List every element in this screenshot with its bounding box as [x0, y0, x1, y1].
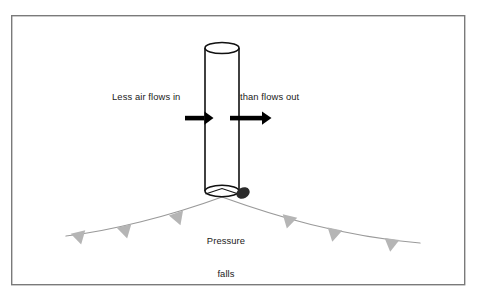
cylinder-body — [205, 48, 239, 197]
label-than-flows-out: than flows out — [240, 91, 299, 102]
cylinder-top-ellipse — [205, 43, 239, 54]
cylinder-bottom-ellipse — [205, 185, 239, 197]
outflow-arrow-shaft — [230, 116, 262, 121]
figure-root: Less air flows in than flows out Pressur… — [0, 0, 481, 295]
label-pressure-falls-line1: Pressure — [196, 235, 256, 246]
label-pressure-falls: Pressure falls — [196, 213, 256, 295]
label-less-air-flows-in: Less air flows in — [112, 91, 180, 102]
inflow-arrow-shaft — [185, 116, 205, 121]
label-pressure-falls-line2: falls — [196, 268, 256, 279]
